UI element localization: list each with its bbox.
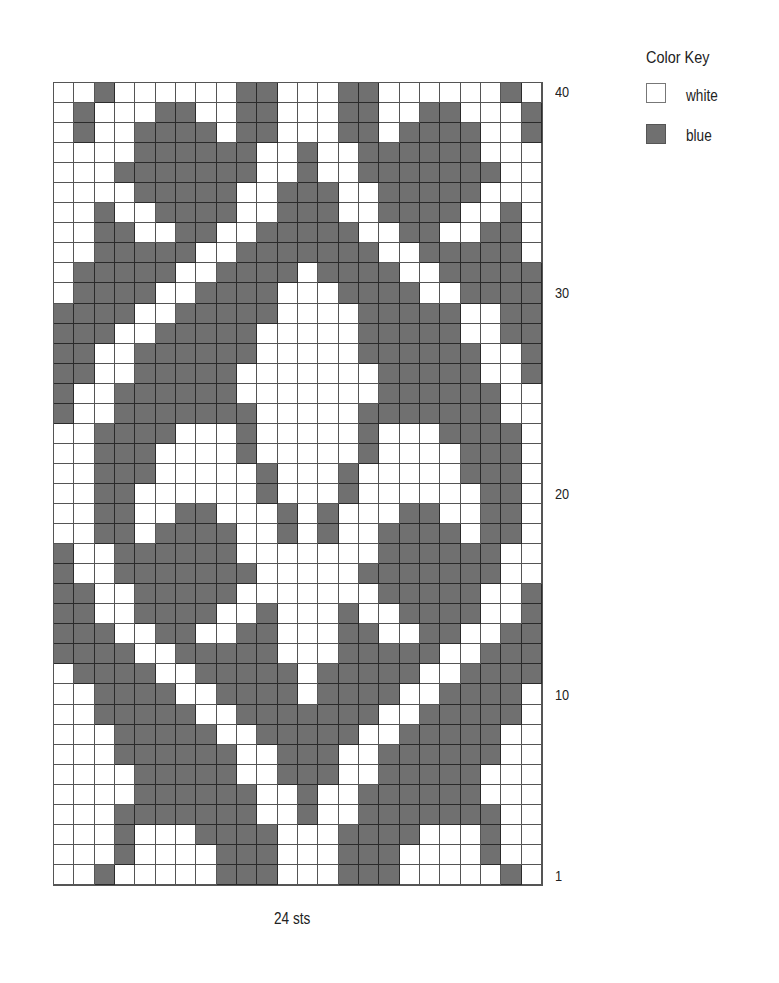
grid-cell (461, 424, 481, 444)
grid-cell (339, 765, 359, 785)
grid-cell (257, 444, 277, 464)
grid-cell (95, 825, 115, 845)
grid-cell (257, 364, 277, 384)
grid-cell (135, 584, 155, 604)
grid-cell (196, 344, 216, 364)
grid-cell (176, 384, 196, 404)
grid-cell (440, 684, 460, 704)
grid-cell (481, 785, 501, 805)
grid-cell (298, 765, 318, 785)
grid-cell (420, 384, 440, 404)
grid-cell (298, 705, 318, 725)
grid-cell (95, 464, 115, 484)
grid-cell (74, 404, 94, 424)
grid-cell (217, 524, 237, 544)
grid-cell (318, 785, 338, 805)
grid-cell (156, 263, 176, 283)
grid-cell (481, 324, 501, 344)
grid-cell (176, 404, 196, 424)
grid-cell (298, 504, 318, 524)
grid-cell (318, 644, 338, 664)
grid-cell (135, 203, 155, 223)
grid-cell (176, 163, 196, 183)
grid-cell (481, 584, 501, 604)
grid-cell (115, 484, 135, 504)
grid-cell (481, 424, 501, 444)
grid-cell (420, 464, 440, 484)
grid-cell (95, 444, 115, 464)
grid-cell (522, 163, 542, 183)
grid-cell (196, 424, 216, 444)
grid-cell (257, 183, 277, 203)
grid-cell (257, 785, 277, 805)
grid-cell (95, 745, 115, 765)
grid-cell (176, 845, 196, 865)
grid-cell (440, 825, 460, 845)
grid-cell (522, 223, 542, 243)
grid-cell (217, 444, 237, 464)
grid-cell (237, 283, 257, 303)
grid-cell (156, 364, 176, 384)
grid-cell (257, 644, 277, 664)
grid-cell (359, 364, 379, 384)
grid-cell (400, 243, 420, 263)
grid-cell (400, 364, 420, 384)
grid-cell (420, 263, 440, 283)
grid-cell (298, 324, 318, 344)
grid-cell (217, 143, 237, 163)
grid-cell (400, 83, 420, 103)
grid-cell (318, 524, 338, 544)
grid-cell (257, 805, 277, 825)
grid-cell (115, 163, 135, 183)
grid-cell (481, 825, 501, 845)
grid-cell (359, 745, 379, 765)
grid-cell (237, 384, 257, 404)
row-label-20: 20 (555, 486, 569, 502)
grid-cell (420, 243, 440, 263)
grid-cell (481, 263, 501, 283)
grid-cell (217, 324, 237, 344)
grid-cell (359, 524, 379, 544)
grid-cell (278, 805, 298, 825)
grid-cell (318, 845, 338, 865)
grid-cell (400, 765, 420, 785)
grid-cell (237, 845, 257, 865)
grid-cell (501, 484, 521, 504)
grid-cell (54, 304, 74, 324)
grid-cell (217, 725, 237, 745)
grid-cell (318, 304, 338, 324)
grid-cell (278, 564, 298, 584)
grid-cell (278, 324, 298, 344)
grid-cell (156, 163, 176, 183)
grid-cell (461, 845, 481, 865)
grid-cell (74, 664, 94, 684)
grid-cell (522, 424, 542, 444)
grid-cell (115, 584, 135, 604)
grid-cell (278, 664, 298, 684)
grid-cell (115, 263, 135, 283)
grid-cell (54, 103, 74, 123)
grid-cell (522, 404, 542, 424)
row-label-1: 1 (555, 868, 562, 884)
grid-cell (298, 163, 318, 183)
grid-cell (257, 464, 277, 484)
grid-cell (196, 504, 216, 524)
grid-cell (318, 444, 338, 464)
grid-cell (196, 223, 216, 243)
grid-cell (278, 504, 298, 524)
grid-cell (522, 644, 542, 664)
grid-cell (339, 283, 359, 303)
grid-cell (135, 604, 155, 624)
grid-cell (217, 464, 237, 484)
grid-cell (400, 845, 420, 865)
grid-cell (298, 83, 318, 103)
grid-cell (176, 785, 196, 805)
grid-cell (217, 765, 237, 785)
grid-cell (54, 123, 74, 143)
grid-cell (440, 83, 460, 103)
grid-cell (461, 364, 481, 384)
grid-cell (237, 765, 257, 785)
grid-cell (176, 504, 196, 524)
stitch-count-label: 24 sts (274, 910, 310, 928)
grid-cell (54, 765, 74, 785)
